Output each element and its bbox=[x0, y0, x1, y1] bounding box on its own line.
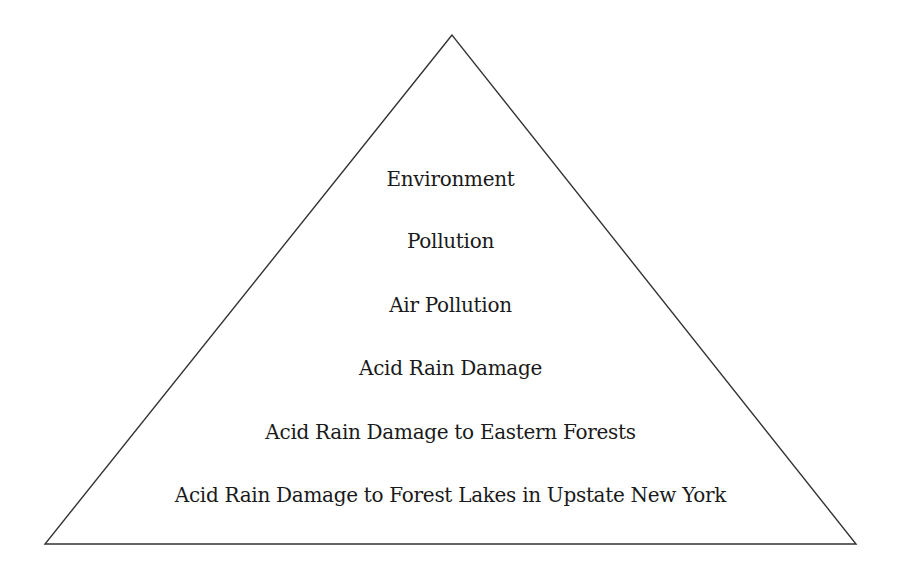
level-acid-rain-forest-lakes-ny: Acid Rain Damage to Forest Lakes in Upst… bbox=[0, 483, 901, 507]
level-pollution: Pollution bbox=[0, 229, 901, 253]
level-acid-rain-eastern-forests: Acid Rain Damage to Eastern Forests bbox=[0, 420, 901, 444]
level-environment: Environment bbox=[0, 167, 901, 191]
triangle-outline bbox=[45, 35, 856, 544]
level-acid-rain-damage: Acid Rain Damage bbox=[0, 356, 901, 380]
level-air-pollution: Air Pollution bbox=[0, 293, 901, 317]
